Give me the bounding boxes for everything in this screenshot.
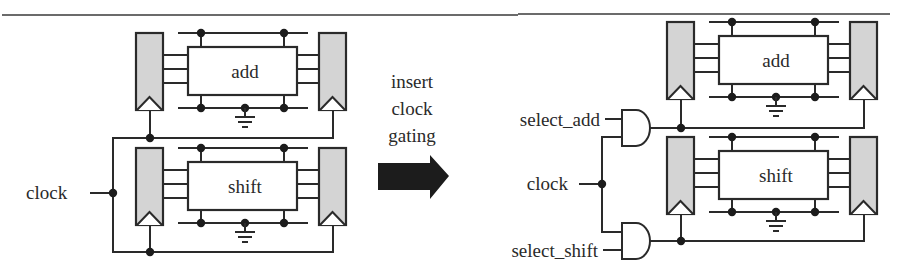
left-shift-label: shift xyxy=(228,176,263,197)
left-add-block: add xyxy=(136,29,346,127)
junction-dot xyxy=(677,124,685,132)
left-circuit: add shift clock xyxy=(26,29,346,256)
transform-label-line-3: gating xyxy=(388,125,436,146)
clock-gating-diagram: add shift clock insert clock gating add xyxy=(0,0,898,273)
right-clock-label: clock xyxy=(527,173,569,194)
transform-label-line-2: clock xyxy=(391,98,433,119)
junction-dot xyxy=(146,248,154,256)
left-add-label: add xyxy=(231,61,259,82)
and-gate-add-icon xyxy=(622,110,650,146)
transform-annotation: insert clock gating xyxy=(378,71,449,199)
right-shift-label: shift xyxy=(759,165,794,186)
junction-dot xyxy=(598,180,606,188)
right-shift-block: shift xyxy=(667,133,877,231)
junction-dot xyxy=(677,237,685,245)
junction-dot xyxy=(109,189,117,197)
right-circuit: add shift select_add clock select xyxy=(511,18,877,261)
right-arrow-icon xyxy=(378,155,449,199)
right-add-block: add xyxy=(667,18,877,116)
and-gate-shift-icon xyxy=(622,223,650,259)
select-add-label: select_add xyxy=(520,109,601,130)
right-add-label: add xyxy=(762,50,790,71)
junction-dot xyxy=(146,134,154,142)
select-shift-label: select_shift xyxy=(511,240,598,261)
transform-label-line-1: insert xyxy=(391,71,434,92)
left-clock-label: clock xyxy=(26,182,68,203)
left-shift-block: shift xyxy=(136,144,346,242)
